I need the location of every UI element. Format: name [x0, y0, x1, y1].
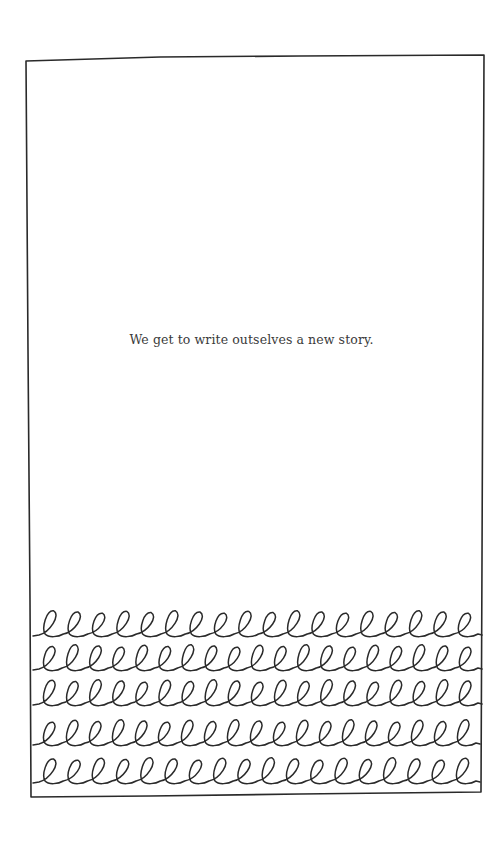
loop-row [33, 645, 482, 671]
story-caption: We get to write outselves a new story. [0, 332, 503, 347]
loop-row [33, 720, 480, 746]
loop-row [33, 680, 482, 706]
loop-row [33, 758, 480, 784]
hand-drawn-frame [0, 0, 503, 864]
loop-row [33, 611, 482, 637]
cursive-loop-rows [33, 611, 482, 784]
